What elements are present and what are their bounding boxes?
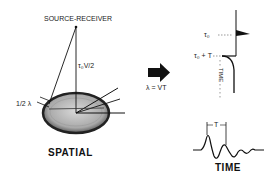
distance-label: τ₀V/2 bbox=[78, 62, 94, 70]
source-receiver-label: SOURCE-RECEIVER bbox=[44, 15, 112, 23]
spatial-title: SPATIAL bbox=[48, 147, 93, 158]
t0-plus-t-label: τ₀ + T bbox=[194, 52, 212, 60]
source-receiver-point bbox=[75, 26, 78, 29]
diagram-canvas bbox=[0, 0, 280, 178]
waveform bbox=[193, 122, 264, 158]
spatial-geometry bbox=[37, 26, 125, 133]
wavelength-relation-label: λ = VT bbox=[146, 84, 166, 92]
half-wavelength-label: 1/2 λ bbox=[16, 100, 31, 108]
transform-arrow bbox=[148, 63, 170, 82]
time-axis-label: TIME bbox=[217, 68, 225, 82]
time-trace bbox=[213, 10, 250, 98]
time-title: TIME bbox=[215, 162, 241, 173]
t0-label: τ₀ bbox=[204, 31, 210, 39]
period-label: T bbox=[214, 121, 218, 129]
